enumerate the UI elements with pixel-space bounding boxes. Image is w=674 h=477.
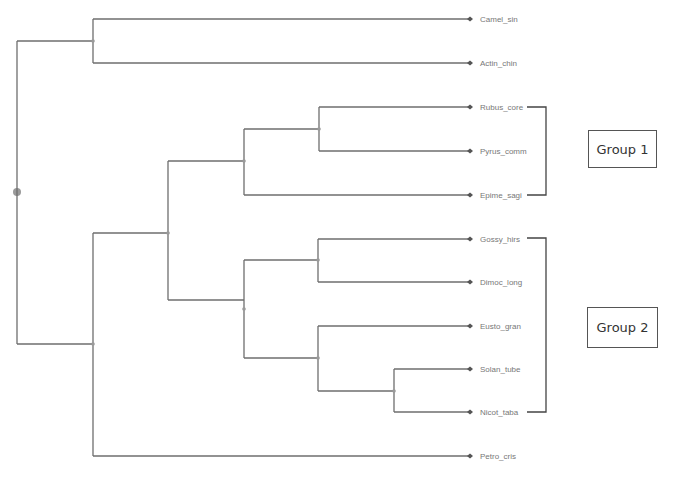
leaf-tip-marker (467, 193, 473, 198)
leaf-tip-marker (467, 149, 473, 154)
leaf-tip-marker (467, 105, 473, 110)
leaf-label: Eusto_gran (480, 322, 521, 331)
leaf-label: Camel_sin (480, 15, 518, 24)
eusto-clade-node (316, 356, 320, 360)
leaf-tip-marker (467, 324, 473, 329)
clade-a-node (91, 39, 95, 43)
leaf-gossy: Gossy_hirs (467, 235, 520, 244)
leaf-pyrus: Pyrus_comm (467, 147, 527, 156)
leaf-epime: Epime_sagi (467, 191, 522, 200)
dendrogram: Camel_sin Actin_chin Rubus_core Pyrus_co… (0, 0, 674, 477)
group2-label: Group 2 (597, 320, 649, 335)
solan-nicot-node (392, 389, 396, 393)
groups-node (166, 231, 170, 235)
clade-b-node (91, 342, 95, 346)
group2-node (242, 307, 246, 311)
group1-label-box: Group 1 (588, 130, 657, 168)
leaf-tip-marker (467, 367, 473, 372)
rubus-pyrus-node (317, 127, 321, 131)
leaf-label: Gossy_hirs (480, 235, 520, 244)
gossy-dimoc-node (316, 258, 320, 262)
leaf-tip-marker (467, 17, 473, 22)
group2-label-box: Group 2 (587, 307, 658, 348)
leaf-eusto: Eusto_gran (467, 322, 521, 331)
group1-label: Group 1 (597, 142, 649, 157)
leaf-tip-marker (467, 61, 473, 66)
leaf-label: Dimoc_long (480, 278, 522, 287)
leaf-camel: Camel_sin (467, 15, 518, 24)
leaf-tip-marker (467, 454, 473, 459)
leaf-tip-marker (467, 280, 473, 285)
leaf-label: Nicot_taba (480, 408, 519, 417)
leaf-label: Pyrus_comm (480, 147, 527, 156)
group1-node (242, 159, 246, 163)
leaf-label: Rubus_core (480, 103, 524, 112)
leaf-solan: Solan_tube (467, 365, 521, 374)
leaf-petro: Petro_cris (467, 452, 516, 461)
leaf-rubus: Rubus_core (467, 103, 524, 112)
leaf-dimoc: Dimoc_long (467, 278, 522, 287)
leaf-label: Petro_cris (480, 452, 516, 461)
leaf-actin: Actin_chin (467, 59, 517, 68)
leaf-tip-marker (467, 410, 473, 415)
group2-bracket (527, 238, 546, 412)
leaf-tip-marker (467, 237, 473, 242)
leaf-label: Epime_sagi (480, 191, 522, 200)
leaf-label: Actin_chin (480, 59, 517, 68)
leaf-label: Solan_tube (480, 365, 521, 374)
leaf-nicot: Nicot_taba (467, 408, 519, 417)
group1-bracket (527, 107, 546, 195)
